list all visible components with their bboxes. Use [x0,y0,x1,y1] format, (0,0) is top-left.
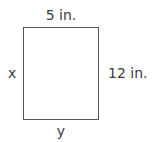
left-side-label: x [8,66,16,80]
rectangle-shape [23,27,99,120]
right-side-label: 12 in. [108,66,147,80]
bottom-side-label: y [23,124,99,138]
top-side-label: 5 in. [23,8,99,22]
